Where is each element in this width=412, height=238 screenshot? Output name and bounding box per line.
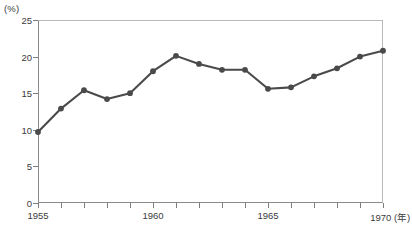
y-tick-label-5: 5 <box>6 161 32 172</box>
x-tick-label-1960: 1960 <box>142 210 163 221</box>
x-tick-mark-1961 <box>176 203 177 208</box>
x-tick-mark-1965 <box>268 203 269 208</box>
x-tick-mark-1967 <box>314 203 315 208</box>
y-tick-mark-15 <box>33 93 38 94</box>
x-tick-mark-1966 <box>291 203 292 208</box>
y-tick-label-15: 15 <box>6 88 32 99</box>
x-tick-mark-1959 <box>130 203 131 208</box>
x-tick-mark-1955 <box>38 203 39 208</box>
y-tick-label-25: 25 <box>6 15 32 26</box>
y-tick-label-10: 10 <box>6 124 32 135</box>
x-tick-mark-1964 <box>245 203 246 208</box>
x-tick-mark-1958 <box>107 203 108 208</box>
x-tick-label-1970: 1970 (年) <box>370 210 410 224</box>
y-axis-unit-label: (%) <box>4 3 19 14</box>
y-tick-mark-25 <box>33 20 38 21</box>
x-tick-mark-1962 <box>199 203 200 208</box>
y-tick-label-0: 0 <box>6 198 32 209</box>
plot-area <box>38 20 383 203</box>
x-tick-mark-1963 <box>222 203 223 208</box>
x-tick-mark-1968 <box>337 203 338 208</box>
y-tick-mark-20 <box>33 57 38 58</box>
x-tick-mark-1970 <box>383 203 384 208</box>
y-tick-mark-10 <box>33 130 38 131</box>
y-tick-mark-5 <box>33 166 38 167</box>
x-tick-label-1965: 1965 <box>257 210 278 221</box>
x-tick-mark-1957 <box>84 203 85 208</box>
x-tick-mark-1956 <box>61 203 62 208</box>
line-chart: (%) 0510152025 1955196019651970 (年) <box>0 0 412 238</box>
y-tick-label-20: 20 <box>6 51 32 62</box>
x-tick-mark-1960 <box>153 203 154 208</box>
x-tick-mark-1969 <box>360 203 361 208</box>
x-tick-label-1955: 1955 <box>27 210 48 221</box>
